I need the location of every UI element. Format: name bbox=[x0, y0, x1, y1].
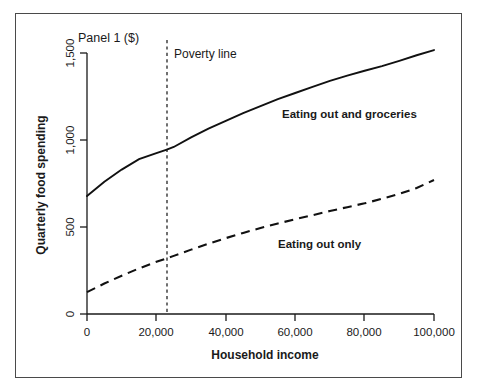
x-tick-label-40000: 40,000 bbox=[208, 326, 243, 338]
x-tick-label-100000: 100,000 bbox=[413, 326, 455, 338]
x-tick-label-0: 0 bbox=[84, 326, 90, 338]
y-tick-label-1000: 1,000 bbox=[64, 126, 76, 155]
series-label-eating-out-only: Eating out only bbox=[278, 238, 362, 250]
series-line-eating-out-and-groceries bbox=[87, 50, 434, 196]
chart-figure: 0 500 1,000 1,500 0 20,000 40,000 60,000… bbox=[0, 0, 478, 392]
series-label-eating-out-and-groceries: Eating out and groceries bbox=[282, 108, 417, 120]
chart-canvas: 0 500 1,000 1,500 0 20,000 40,000 60,000… bbox=[0, 0, 478, 392]
x-tick-label-20000: 20,000 bbox=[138, 326, 173, 338]
series-line-eating-out-only bbox=[87, 180, 434, 292]
y-axis-title: Quarterly food spending bbox=[34, 115, 48, 254]
y-tick-label-500: 500 bbox=[64, 217, 76, 236]
panel-title: Panel 1 ($) bbox=[78, 31, 139, 45]
y-tick-label-1500: 1,500 bbox=[64, 39, 76, 68]
x-tick-label-60000: 60,000 bbox=[277, 326, 312, 338]
poverty-line-label: Poverty line bbox=[174, 47, 237, 61]
x-axis-title: Household income bbox=[211, 348, 319, 362]
y-tick-label-0: 0 bbox=[64, 311, 76, 317]
x-tick-label-80000: 80,000 bbox=[346, 326, 381, 338]
